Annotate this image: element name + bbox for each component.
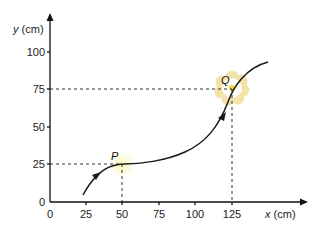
svg-text:0: 0 (47, 208, 53, 220)
axes (47, 13, 309, 206)
svg-text:100: 100 (186, 208, 204, 220)
svg-text:25: 25 (80, 208, 92, 220)
y-tick-labels: 0 25 50 75 100 (27, 46, 45, 208)
svg-text:75: 75 (33, 83, 45, 95)
y-axis-arrow-icon (47, 13, 54, 21)
x-axis-arrow-icon (300, 199, 308, 206)
svg-text:0: 0 (39, 196, 45, 208)
y-axis-label: y (cm) (12, 23, 44, 35)
chart: 0 25 50 75 100 0 25 50 75 100 125 y (cm)… (0, 0, 321, 235)
svg-text:75: 75 (153, 208, 165, 220)
svg-text:125: 125 (223, 208, 241, 220)
svg-text:50: 50 (116, 208, 128, 220)
guide-lines (50, 89, 232, 202)
svg-text:50: 50 (33, 121, 45, 133)
svg-text:25: 25 (33, 158, 45, 170)
point-q-label: Q (221, 74, 230, 86)
x-tick-labels: 0 25 50 75 100 125 (47, 208, 241, 220)
point-p-label: P (111, 150, 119, 162)
x-axis-label: x (cm) (264, 208, 296, 220)
svg-text:100: 100 (27, 46, 45, 58)
